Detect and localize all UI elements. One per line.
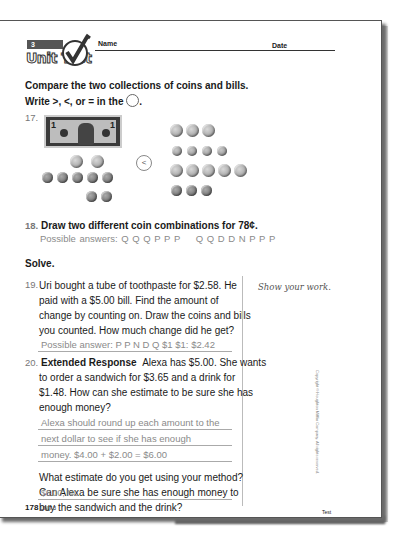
penny-coin <box>102 172 113 183</box>
question-17-number: 17. <box>25 112 38 123</box>
dime-coin <box>217 146 227 156</box>
answer-line[interactable] <box>38 461 232 462</box>
dollar-bill-image: 1 1 <box>44 115 122 148</box>
question-18-answer: Possible answers: Q Q Q P P P Q Q D D N … <box>40 233 275 244</box>
page-number: 178 <box>25 503 38 512</box>
dime-coin <box>187 146 197 156</box>
quarter-coin <box>186 124 199 137</box>
question-20-text: 20. Extended Response Alexa has $5.00. S… <box>25 355 266 415</box>
compare-circle-icon <box>126 94 139 107</box>
quarter-coin <box>186 164 199 177</box>
quarter-coin <box>202 124 215 137</box>
date-label: Date <box>272 42 287 49</box>
question-19-text: Uri bought a tube of toothpaste for $2.5… <box>39 278 251 338</box>
unit-number-badge: 3 <box>27 40 63 49</box>
extended-response-label: Extended Response <box>41 357 137 368</box>
question-20-answer-line-3: money. $4.00 + $2.00 = $6.00 <box>41 449 167 460</box>
penny-coin <box>87 172 98 183</box>
solve-heading: Solve. <box>25 258 54 269</box>
quarter-coin <box>70 155 83 168</box>
dime-coin <box>172 146 182 156</box>
penny-coin <box>201 185 212 196</box>
quarter-coin <box>202 164 215 177</box>
answer-line[interactable] <box>38 499 232 500</box>
question-20-answer-line-1: Alexa should round up each amount to the <box>41 417 220 428</box>
answer-line[interactable] <box>38 429 232 430</box>
copyright-notice: Copyright © Houghton Mifflin Company. Al… <box>315 370 320 474</box>
question-18: 18. Draw two different coin combinations… <box>25 218 258 233</box>
question-20-followup-answer: $6.00; No <box>41 488 78 498</box>
dime-coin <box>202 146 212 156</box>
instruction-line-1: Compare the two collections of coins and… <box>25 80 248 91</box>
comparison-circle[interactable]: < <box>136 155 152 171</box>
checkmark-pencil-icon <box>60 33 92 69</box>
penny-coin <box>171 185 182 196</box>
quarter-coin <box>170 164 183 177</box>
quarter-coin <box>170 124 183 137</box>
penny-coin <box>42 172 53 183</box>
page-shadow-right <box>382 26 388 522</box>
answer-line[interactable] <box>38 445 232 446</box>
show-your-work-label: Show your work. <box>258 282 331 292</box>
answer-line[interactable] <box>38 351 232 352</box>
page-footer-right: Test <box>322 509 331 515</box>
quarter-coin <box>234 164 247 177</box>
question-19-number: 19. <box>25 279 38 290</box>
quarter-coin <box>91 155 104 168</box>
quarter-coin <box>218 164 231 177</box>
name-date-line[interactable] <box>95 50 335 51</box>
penny-coin <box>72 172 83 183</box>
page-footer-left: 178UNIT 3 <box>25 503 56 512</box>
question-19-answer: Possible answer: P P N D Q $1 $1: $2.42 <box>41 339 215 350</box>
penny-coin <box>186 185 197 196</box>
penny-coin <box>86 191 97 202</box>
unit-label: UNIT 3 <box>40 505 56 511</box>
name-label: Name <box>98 40 117 47</box>
instruction-line-2: Write >, <, or = in the . <box>25 94 142 107</box>
penny-coin <box>101 191 112 202</box>
penny-coin <box>57 172 68 183</box>
question-20-answer-line-2: next dollar to see if she has enough <box>41 433 191 444</box>
